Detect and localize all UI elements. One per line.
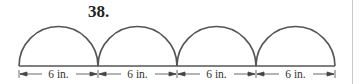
page-divider — [352, 0, 353, 84]
semicircle-1 — [19, 27, 98, 66]
segment-label-1: 6 in. — [48, 68, 69, 80]
segment-label-3: 6 in. — [206, 68, 227, 80]
semicircle-2 — [98, 27, 177, 66]
semicircles-figure: 6 in. 6 in. 6 in. 6 in. — [0, 0, 361, 84]
semicircle-4 — [256, 27, 335, 66]
segment-label-4: 6 in. — [285, 68, 306, 80]
segment-label-2: 6 in. — [127, 68, 148, 80]
semicircle-3 — [177, 27, 256, 66]
